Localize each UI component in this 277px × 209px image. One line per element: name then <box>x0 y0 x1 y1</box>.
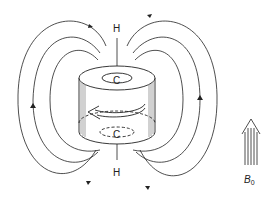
label-h-top: H <box>113 23 120 34</box>
label-c-top: C <box>113 75 120 86</box>
ring-current-diagram: H H C C B0 <box>0 0 277 209</box>
label-h-bottom: H <box>113 167 120 178</box>
label-b0: B0 <box>244 174 255 186</box>
label-c-bottom: C <box>113 129 120 140</box>
applied-field-arrow <box>242 119 260 165</box>
